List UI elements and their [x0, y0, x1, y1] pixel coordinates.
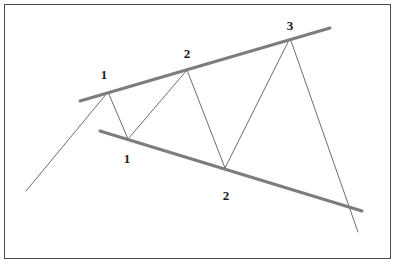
label-peak-1: 1	[95, 68, 113, 81]
label-peak-2: 2	[178, 47, 196, 60]
label-trough-2: 2	[217, 189, 235, 202]
chart-background	[0, 0, 395, 263]
diagram-figure: 1 2 3 1 2	[0, 0, 395, 263]
broadening-formation-chart	[0, 0, 395, 263]
label-peak-3: 3	[281, 19, 299, 32]
label-trough-1: 1	[118, 152, 136, 165]
